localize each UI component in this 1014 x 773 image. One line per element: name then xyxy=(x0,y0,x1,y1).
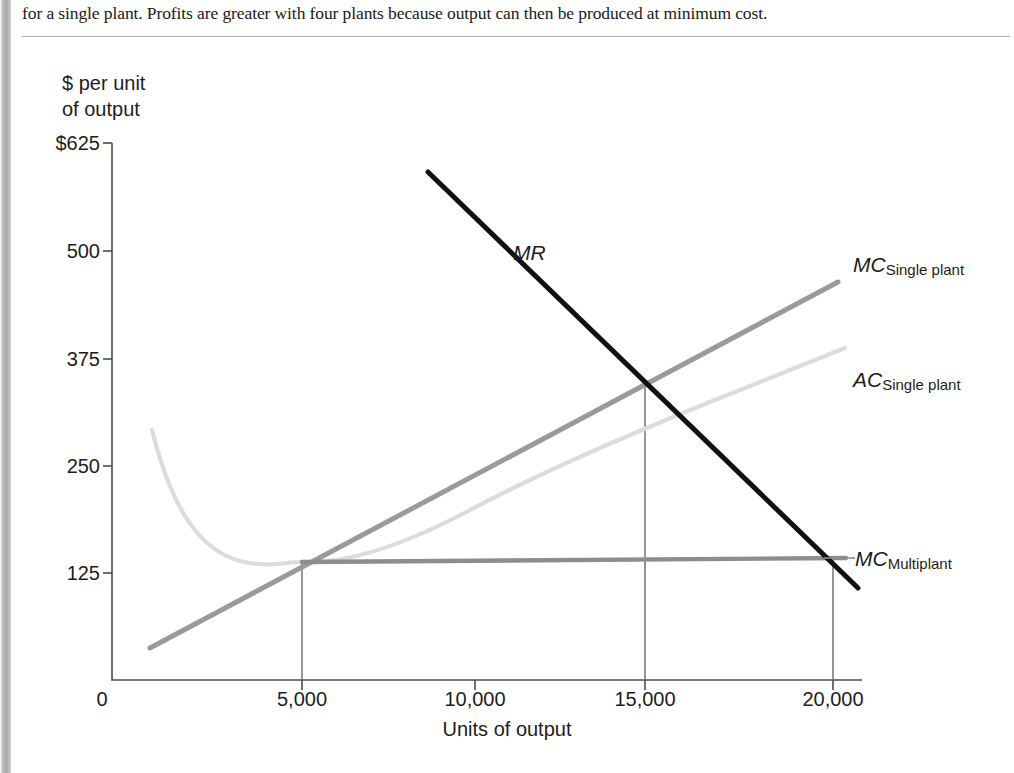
curve-label-ac-single-subscript: Single plant xyxy=(882,376,960,393)
x-tick-label-10000: 10,000 xyxy=(415,688,535,711)
curve-label-ac-single-symbol: AC xyxy=(853,368,882,391)
y-axis-title: $ per unit of output xyxy=(62,70,145,122)
curve-label-mc-single-subscript: Single plant xyxy=(886,261,964,278)
curve-mc-single-plant xyxy=(150,282,838,648)
x-tick-label-15000: 15,000 xyxy=(585,688,705,711)
curve-label-ac-single-plant: ACSingle plant xyxy=(853,368,961,392)
curve-mr xyxy=(428,172,858,588)
x-tick-label-20000: 20,000 xyxy=(773,688,893,711)
y-tick-label-125: 125 xyxy=(12,562,100,585)
axis-lines xyxy=(112,143,862,680)
y-tick-label-375: 375 xyxy=(12,348,100,371)
y-axis-title-text-2: of output xyxy=(62,98,140,120)
plot-area xyxy=(0,40,1014,773)
curve-label-mc-multiplant-subscript: Multiplant xyxy=(888,555,952,572)
y-tick-label-625: $625 xyxy=(12,132,100,155)
y-tick-label-250: 250 xyxy=(12,455,100,478)
curve-label-mc-multiplant-symbol: MC xyxy=(855,547,888,570)
curve-label-mr: MR xyxy=(513,241,546,265)
y-tick-label-500: 500 xyxy=(12,240,100,263)
x-tick-label-5000: 5,000 xyxy=(242,688,362,711)
horizontal-rule xyxy=(22,36,1010,37)
caption-paragraph: for a single plant. Profits are greater … xyxy=(22,0,1006,30)
curve-ac-single-plant xyxy=(152,348,845,564)
curve-mc-multiplant xyxy=(302,558,846,562)
chart-figure: $ per unit of output Units of output $62… xyxy=(0,40,1014,773)
curve-label-mc-single-symbol: MC xyxy=(853,253,886,276)
curve-label-mc-single-plant: MCSingle plant xyxy=(853,253,964,277)
page-canvas: for a single plant. Profits are greater … xyxy=(0,0,1014,773)
x-axis-title: Units of output xyxy=(0,718,1014,741)
x-tick-label-0: 0 xyxy=(72,688,132,711)
curve-label-mc-multiplant: MCMultiplant xyxy=(855,547,952,571)
y-axis-title-text: $ per unit xyxy=(62,72,145,94)
